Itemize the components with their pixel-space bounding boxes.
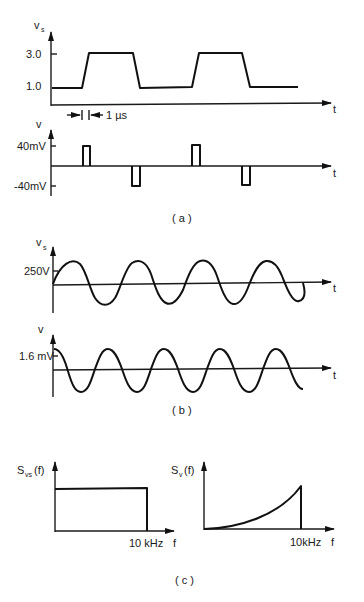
x-tick-label: 10 kHz xyxy=(129,537,163,549)
panel-a-bottom-plot: v t 40mV -40mV xyxy=(14,118,336,196)
tick-label-neg: -40mV xyxy=(14,180,47,192)
x-tick-label: 10kHz xyxy=(290,536,321,548)
flat-spectrum xyxy=(55,488,147,531)
x-axis-label: t xyxy=(333,167,336,179)
panel-b-top-plot: v s t 250V xyxy=(24,236,336,313)
rise-time-annotation: 1 µs xyxy=(67,109,128,121)
pulse-4 xyxy=(242,166,250,185)
x-axis-label: f xyxy=(173,537,177,549)
panel-c-left-plot: S vs (f) 10 kHz f xyxy=(17,462,177,549)
y-axis-label: v xyxy=(34,19,40,31)
interval-label: 1 µs xyxy=(106,109,128,121)
y-axis-label: v xyxy=(36,236,42,248)
tick-label: 250V xyxy=(24,265,50,277)
tick-label-1: 1.0 xyxy=(26,80,41,92)
panel-a-top-plot: v s t 3.0 1.0 1 µs xyxy=(26,19,336,121)
panel-c-right-plot: S v (f) 10kHz f xyxy=(171,462,335,548)
x-axis xyxy=(51,103,331,105)
y-axis-label-suffix: (f) xyxy=(184,464,194,476)
caption-c: ( c ) xyxy=(175,574,194,586)
y-axis-label-sub: v xyxy=(179,471,183,478)
x-axis-label: f xyxy=(331,536,335,548)
y-axis-label: S xyxy=(17,464,24,476)
y-axis-label: v xyxy=(38,323,44,335)
y-axis-label-suffix: (f) xyxy=(34,464,44,476)
y-axis-label-sub: vs xyxy=(25,471,33,478)
cosine-waveform xyxy=(54,349,303,392)
y-axis-label-sub: s xyxy=(41,26,45,33)
trapezoid-waveform xyxy=(52,53,298,88)
pulse-1 xyxy=(83,146,90,166)
y-axis-label: S xyxy=(171,464,178,476)
y-axis-label-sub: s xyxy=(43,244,47,251)
rising-spectrum xyxy=(204,486,301,529)
x-axis xyxy=(53,282,331,285)
caption-a: ( a ) xyxy=(172,212,192,224)
tick-label-pos: 40mV xyxy=(17,140,46,152)
x-axis-label: t xyxy=(333,103,336,115)
pulse-2 xyxy=(132,166,140,186)
x-axis-label: t xyxy=(333,282,336,294)
x-axis-label: t xyxy=(333,369,336,381)
tick-label-3: 3.0 xyxy=(26,48,41,60)
caption-b: ( b ) xyxy=(172,404,192,416)
tick-label: 1.6 mV xyxy=(19,350,55,362)
figure-canvas: v s t 3.0 1.0 1 µs v t 40mV -40mV ( a ) xyxy=(0,0,364,602)
y-axis-label: v xyxy=(36,118,42,130)
panel-b-bottom-plot: v t 1.6 mV xyxy=(19,323,336,397)
pulse-3 xyxy=(192,145,200,166)
